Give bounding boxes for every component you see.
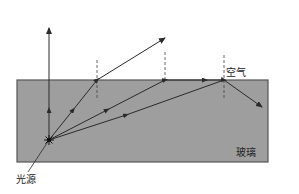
glass-block bbox=[17, 80, 268, 162]
refraction-diagram bbox=[0, 0, 299, 194]
label-glass: 玻璃 bbox=[236, 144, 256, 159]
label-light-source: 光源 bbox=[16, 171, 36, 186]
label-air: 空气 bbox=[226, 64, 246, 79]
light-source-icon bbox=[44, 135, 54, 145]
